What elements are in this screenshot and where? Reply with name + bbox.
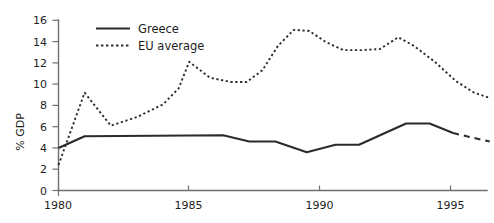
- line-chart: % GDP 16 14 12 10 8 6 4 2 0: [0, 0, 494, 223]
- y-tick-label-6: 6: [40, 121, 47, 134]
- y-tick-label-14: 14: [33, 36, 47, 49]
- x-tick-label-1990: 1990: [306, 199, 334, 212]
- legend-label-greece: Greece: [138, 22, 179, 36]
- x-axis-tick-labels: 1980 1985 1990 1995: [44, 199, 465, 212]
- y-axis-title: % GDP: [14, 113, 27, 151]
- series-line-greece: [59, 123, 454, 152]
- series-line-greece-projection: [453, 133, 490, 142]
- x-tick-label-1985: 1985: [175, 199, 203, 212]
- legend-label-eu-average: EU average: [138, 39, 204, 53]
- chart-container: % GDP 16 14 12 10 8 6 4 2 0: [0, 0, 494, 223]
- y-tick-label-10: 10: [33, 78, 47, 91]
- y-tick-label-12: 12: [33, 57, 47, 70]
- y-tick-label-0: 0: [40, 185, 47, 198]
- series-line-eu-average: [59, 30, 490, 165]
- y-axis-tick-labels: 16 14 12 10 8 6 4 2 0: [33, 14, 47, 197]
- y-tick-label-8: 8: [40, 99, 47, 112]
- y-tick-label-2: 2: [40, 163, 47, 176]
- y-tick-label-4: 4: [40, 142, 47, 155]
- x-tick-label-1995: 1995: [437, 199, 465, 212]
- y-tick-label-16: 16: [33, 14, 47, 27]
- x-tick-label-1980: 1980: [44, 199, 72, 212]
- y-axis-ticks: [53, 20, 59, 190]
- legend: Greece EU average: [96, 22, 204, 53]
